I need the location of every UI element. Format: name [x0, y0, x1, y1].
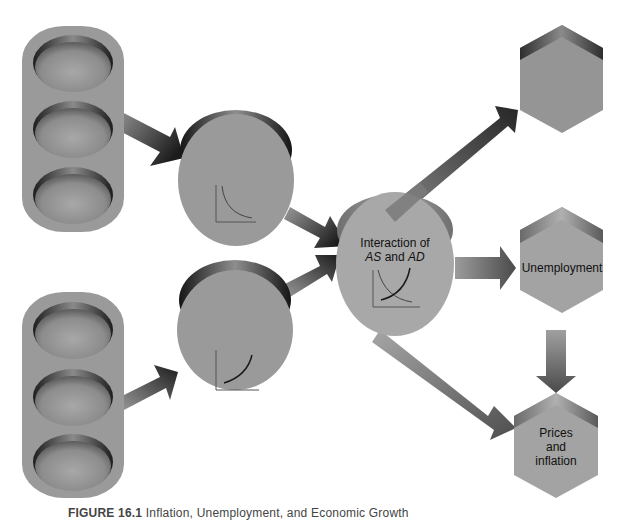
aggregate-demand-circle — [178, 110, 294, 246]
arrow-unemployment-to-prices — [536, 330, 576, 393]
top-outcome-hexagon — [520, 25, 603, 133]
and-term: and — [381, 250, 408, 264]
stack-oval-1 — [33, 302, 113, 359]
interaction-label-line1: Interaction of — [345, 236, 445, 250]
stack-oval-2 — [33, 369, 113, 426]
arrow-interaction-to-prices — [372, 330, 516, 440]
arrow-bottom-stack-to-as — [118, 365, 178, 410]
ad-term: AD — [408, 250, 425, 264]
stack-oval-3 — [33, 434, 113, 491]
prices-label-line1: Prices — [516, 426, 596, 440]
interaction-label-line2: AS and AD — [345, 250, 445, 264]
unemployment-hexagon — [520, 207, 603, 313]
prices-label-line2: and — [516, 440, 596, 454]
as-term: AS — [365, 250, 381, 264]
prices-inflation-label: Prices and inflation — [516, 426, 596, 468]
stack-oval-2 — [33, 101, 113, 158]
bottom-factor-stack — [22, 292, 124, 498]
stack-oval-3 — [33, 167, 113, 224]
arrow-interaction-to-unemployment — [455, 246, 516, 290]
arrow-as-to-interaction — [283, 255, 340, 297]
prices-label-line3: inflation — [516, 454, 596, 468]
top-factor-stack — [22, 26, 124, 232]
figure-number: FIGURE 16.1 — [68, 506, 142, 520]
stack-oval-1 — [33, 35, 113, 92]
unemployment-label: Unemployment — [516, 261, 608, 275]
figure-caption: FIGURE 16.1 Inflation, Unemployment, and… — [68, 506, 409, 520]
figure-title: Inflation, Unemployment, and Economic Gr… — [146, 506, 409, 520]
interaction-label: Interaction of AS and AD — [345, 236, 445, 264]
aggregate-supply-circle — [177, 260, 293, 390]
